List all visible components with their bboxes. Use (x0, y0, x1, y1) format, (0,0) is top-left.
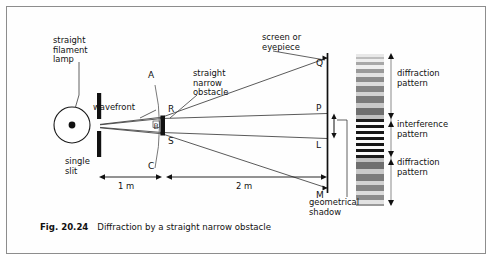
geometrical-shadow-leader (337, 120, 347, 197)
ray-obstacle-bottom-edge-to-L (100, 127, 327, 138)
arrow-interference-upper (388, 121, 394, 127)
point-label-P: P (316, 104, 321, 113)
fringe-band (356, 108, 384, 115)
ray-obstacle-top-edge-to-P (100, 114, 327, 125)
lamp-leader-line (76, 62, 80, 107)
shadow-extent-arrow-down (331, 133, 336, 138)
interference-pattern-label: interference pattern (397, 120, 481, 139)
diffraction-pattern-bottom-label: diffraction pattern (397, 158, 479, 177)
slit-lower-jaw (97, 131, 101, 157)
point-label-C: C (148, 162, 154, 171)
point-label-A: A (148, 71, 154, 80)
fringe-band (356, 174, 384, 181)
arrow-diffraction-bottom-lower (388, 200, 394, 206)
shadow-extent-arrow-up (331, 114, 336, 119)
figure-panel: straight filament lamp single slit wavef… (6, 6, 486, 254)
lamp-label: straight filament lamp (53, 36, 113, 65)
ray-lower-envelope (100, 128, 327, 188)
lamp-filament-dot-icon (69, 122, 76, 129)
point-label-Q: Q (316, 59, 323, 68)
figure-caption-text: Diffraction by a straight narrow obstacl… (97, 222, 271, 232)
fringe-band (356, 162, 384, 169)
dimension-2m-arrow-right (321, 174, 327, 180)
point-label-M: M (316, 191, 324, 200)
figure-number: Fig. 20.24 (40, 222, 88, 232)
single-slit-label: single slit (65, 157, 117, 176)
screen-label: screen or eyepiece (262, 33, 326, 52)
point-label-S: S (168, 137, 174, 146)
fringe-band (356, 96, 384, 103)
wavefront-leader-line (140, 110, 156, 118)
narrow-obstacle (160, 116, 165, 136)
diffraction-pattern-top-label: diffraction pattern (397, 69, 479, 88)
geometrical-shadow-label: geometrical shadow (309, 198, 379, 217)
arrow-diffraction-top-lower (388, 113, 394, 119)
arrow-diffraction-top-upper (388, 53, 394, 59)
fringe-pattern-strip (356, 54, 384, 206)
dimension-label-2m: 2 m (236, 181, 252, 191)
dimension-1m-arrow-right (156, 174, 162, 180)
point-label-B: B (154, 122, 159, 131)
point-label-L: L (316, 141, 321, 150)
arrow-interference-lower (388, 151, 394, 157)
wavefront-label: wavefront (93, 103, 135, 113)
figure-caption: Fig. 20.24Diffraction by a straight narr… (29, 212, 271, 242)
dimension-label-1m: 1 m (118, 181, 134, 191)
arrow-diffraction-bottom-upper (388, 159, 394, 165)
dimension-2m-arrow-left (166, 174, 172, 180)
point-label-R: R (168, 105, 174, 114)
obstacle-label: straight narrow obstacle (193, 69, 257, 98)
